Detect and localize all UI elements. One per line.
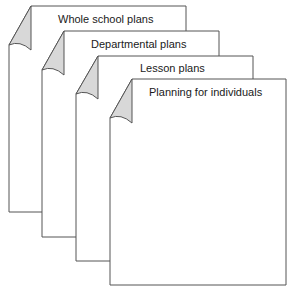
- page-individuals: [110, 79, 286, 285]
- label-whole-school-plans: Whole school plans: [58, 13, 153, 25]
- label-lesson-plans: Lesson plans: [140, 62, 205, 74]
- label-planning-for-individuals: Planning for individuals: [149, 86, 262, 98]
- label-departmental-plans: Departmental plans: [91, 38, 186, 50]
